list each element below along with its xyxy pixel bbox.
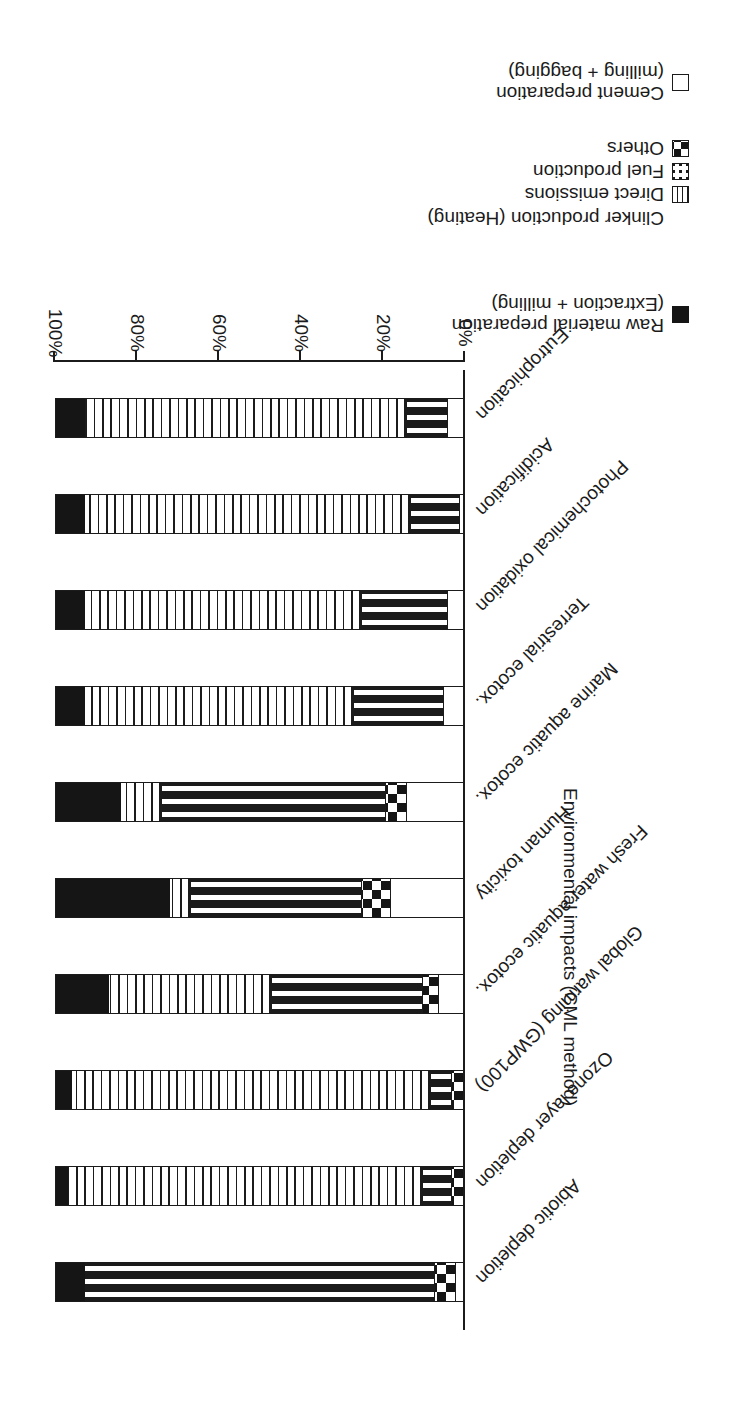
bar-segment-raw: [56, 687, 85, 725]
legend-group-1: Clinker production (Heating)Direct emiss…: [427, 138, 689, 230]
axis-tick-label: 20%: [372, 299, 394, 367]
bar-segment-raw: [56, 975, 109, 1013]
bar-segment-fuel: [411, 495, 460, 533]
plot-area: 0%20%40%60%80%100% Abiotic depletionOzon…: [55, 370, 465, 1330]
legend-entry[interactable]: Cement preparation(milling + bagging): [496, 62, 689, 104]
legend-label: Direct emissions: [525, 184, 664, 205]
legend-swatch-icon: [672, 75, 689, 92]
legend-entry[interactable]: Fuel production: [427, 161, 689, 182]
bar-segment-direct: [109, 975, 272, 1013]
bar: [55, 590, 465, 630]
bar-segment-direct: [85, 687, 354, 725]
bar-segment-cement: [391, 879, 464, 917]
y-axis-title: Environmental impacts (CML method): [559, 788, 581, 1106]
legend-swatch-icon: [672, 163, 689, 180]
bar-segment-others: [362, 879, 391, 917]
bar-segment-direct: [85, 399, 407, 437]
bar-segment-cement: [448, 591, 464, 629]
bar: [55, 1262, 465, 1302]
bar-segment-fuel: [423, 1167, 452, 1205]
bar-segment-cement: [407, 783, 464, 821]
legend-label: Fuel production: [533, 161, 664, 182]
bar-segment-fuel: [431, 1071, 451, 1109]
bar-segment-others: [386, 783, 406, 821]
bar-segment-fuel: [85, 1263, 436, 1301]
legend-label: Raw material preparation(Extraction + mi…: [452, 294, 664, 336]
bar: [55, 1070, 465, 1110]
legend-group-2: Cement preparation(milling + bagging): [496, 62, 689, 106]
bar-segment-fuel: [354, 687, 444, 725]
legend-swatch-icon: [672, 186, 689, 203]
bar-segment-direct: [68, 1167, 423, 1205]
bar-segment-cement: [444, 687, 464, 725]
bar-segment-others: [452, 1167, 464, 1205]
bar-segment-fuel: [162, 783, 386, 821]
bar-segment-raw: [56, 495, 85, 533]
category-label: Photochemical oxidation: [471, 417, 670, 616]
bar-segment-fuel: [362, 591, 448, 629]
legend-label: Others: [607, 138, 664, 159]
bar-segment-direct: [85, 495, 411, 533]
category-label: Marine aquatic ecotox.: [471, 609, 670, 808]
bar: [55, 686, 465, 726]
bar-segment-direct: [72, 1071, 431, 1109]
legend-entry[interactable]: Others: [427, 138, 689, 159]
legend-label: Cement preparation(milling + bagging): [496, 62, 664, 104]
bar: [55, 878, 465, 918]
axis-tick-label: 60%: [208, 299, 230, 367]
legend-entry[interactable]: Raw material preparation(Extraction + mi…: [452, 294, 689, 336]
bar: [55, 782, 465, 822]
bar-segment-direct: [170, 879, 190, 917]
bar-segment-direct: [85, 591, 362, 629]
bar-segment-raw: [56, 879, 170, 917]
bar-segment-cement: [448, 399, 464, 437]
bar-segment-others: [423, 975, 439, 1013]
axis-tick-label: 100%: [44, 299, 66, 367]
bar-segment-direct: [121, 783, 162, 821]
legend-group-0: Raw material preparation(Extraction + mi…: [452, 294, 689, 338]
bar-segment-raw: [56, 591, 85, 629]
legend-swatch-icon: [672, 140, 689, 157]
bar-segment-fuel: [407, 399, 448, 437]
axis-tick-label: 40%: [290, 299, 312, 367]
stacked-bar-chart-figure: 0%20%40%60%80%100% Abiotic depletionOzon…: [0, 0, 729, 1428]
bar-segment-raw: [56, 1071, 72, 1109]
bar-segment-others: [435, 1263, 455, 1301]
category-label: Terrestrial ecotox.: [471, 513, 670, 712]
axis-tick-label: 80%: [126, 299, 148, 367]
bar-segment-fuel: [191, 879, 362, 917]
bar: [55, 398, 465, 438]
bar-segment-others: [452, 1071, 464, 1109]
bar-segment-cement: [456, 1263, 464, 1301]
axis-baseline: [55, 360, 465, 362]
bar-segment-cement: [440, 975, 464, 1013]
figure-rotation-wrapper: 0%20%40%60%80%100% Abiotic depletionOzon…: [0, 0, 729, 1428]
legend-entry[interactable]: Direct emissions: [427, 184, 689, 205]
category-label: Abiotic depletion: [471, 1089, 670, 1288]
bar-segment-raw: [56, 399, 85, 437]
legend-swatch-icon: [672, 307, 689, 324]
bar: [55, 494, 465, 534]
bar: [55, 974, 465, 1014]
bar-segment-raw: [56, 783, 121, 821]
bar-segment-cement: [460, 495, 464, 533]
chart-legend: Raw material preparation(Extraction + mi…: [489, 38, 689, 338]
bar-segment-raw: [56, 1263, 85, 1301]
bar-segment-fuel: [272, 975, 423, 1013]
legend-heading: Clinker production (Heating): [427, 207, 664, 230]
bar: [55, 1166, 465, 1206]
category-label: Acidification: [471, 321, 670, 520]
bar-segment-raw: [56, 1167, 68, 1205]
